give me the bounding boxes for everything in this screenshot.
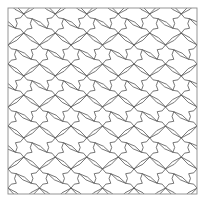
figure-background — [0, 0, 205, 209]
figure-root — [0, 0, 205, 209]
geometric-pattern-figure — [0, 0, 205, 209]
